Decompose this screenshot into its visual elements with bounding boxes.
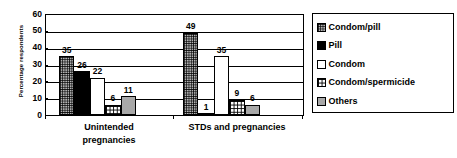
y-axis-tick-label: 30	[25, 60, 42, 69]
bar-chart: Percentage respondents 6050403020100 352…	[0, 0, 457, 158]
y-axis-tick-mark	[45, 81, 48, 82]
y-axis-tick-mark	[45, 31, 48, 32]
x-axis-group-label: STDs and pregnancies	[177, 121, 297, 134]
legend-item-label: Pill	[329, 41, 343, 50]
legend-item-label: Condom/spermicide	[329, 78, 416, 87]
y-axis-tick-mark	[45, 48, 48, 49]
bar	[105, 105, 120, 115]
legend-item[interactable]: Condom/spermicide	[317, 74, 453, 93]
x-axis-tick-mark	[173, 115, 174, 119]
bar-value-label: 35	[55, 46, 78, 55]
y-axis-tick-labels: 6050403020100	[20, 0, 42, 158]
legend-swatch-icon	[317, 97, 326, 106]
bar-value-label: 35	[210, 46, 233, 55]
y-axis-tick-label: 20	[25, 77, 42, 86]
x-axis-group-label-line: Unintended	[49, 121, 169, 134]
y-axis-tick-label: 50	[25, 26, 42, 35]
legend-swatch-icon	[317, 60, 326, 69]
legend: Condom/pillPillCondomCondom/spermicideOt…	[312, 13, 454, 113]
legend-swatch-icon	[317, 23, 326, 32]
legend-item[interactable]: Pill	[317, 37, 453, 56]
y-axis-tick-label: 10	[25, 94, 42, 103]
y-axis-tick-mark	[45, 115, 48, 116]
legend-item[interactable]: Condom/pill	[317, 18, 453, 37]
x-axis-group-label-line: pregnancies	[49, 134, 169, 147]
y-axis-tick-label: 60	[25, 10, 42, 19]
bar	[74, 71, 89, 115]
x-axis-tick-mark	[302, 115, 303, 119]
bar-value-label: 11	[117, 86, 140, 95]
y-axis-tick-label: 0	[25, 111, 42, 120]
legend-item[interactable]: Others	[317, 92, 453, 111]
bars-layer: 3526226114913596	[45, 14, 303, 115]
bar-value-label: 6	[241, 94, 264, 103]
bar-value-label: 22	[86, 67, 109, 76]
y-axis-tick-mark	[45, 14, 48, 15]
bar	[121, 96, 136, 115]
bar	[214, 56, 229, 115]
x-axis-line	[45, 115, 303, 116]
x-axis-group-label: Unintendedpregnancies	[49, 121, 169, 146]
legend-item-label: Condom	[329, 60, 366, 69]
legend-swatch-icon	[317, 41, 326, 50]
bar-value-label: 49	[179, 22, 202, 31]
bar	[198, 113, 213, 115]
legend-swatch-icon	[317, 78, 326, 87]
bar	[245, 105, 260, 115]
legend-item-label: Condom/pill	[329, 23, 381, 32]
y-axis-tick-mark	[45, 65, 48, 66]
y-axis-tick-label: 40	[25, 43, 42, 52]
legend-item-label: Others	[329, 97, 358, 106]
legend-item[interactable]: Condom	[317, 55, 453, 74]
x-axis-group-label-line: STDs and pregnancies	[177, 121, 297, 134]
y-axis-tick-mark	[45, 98, 48, 99]
